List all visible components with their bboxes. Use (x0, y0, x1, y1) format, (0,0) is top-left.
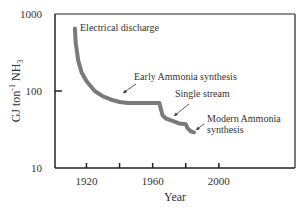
y-tick-label: 10 (31, 162, 43, 174)
x-axis-label: Year (164, 190, 186, 204)
y-axis-label-mid: NH (9, 63, 23, 84)
y-tick-label: 100 (26, 85, 43, 97)
x-tick-label: 1920 (75, 175, 98, 187)
x-tick-label: 2000 (208, 175, 231, 187)
axes: 192019602000101001000 (20, 8, 295, 187)
y-axis-label-main: GJ ton (9, 91, 23, 123)
arrow-modern-ammonia-head (196, 126, 200, 130)
y-tick-label: 1000 (20, 8, 43, 20)
annotation-modern-ammonia: Modern Ammonia (207, 113, 281, 124)
annotation-modern-ammonia-line2: synthesis (207, 124, 244, 135)
y-axis-label-sup: -1 (8, 84, 17, 91)
y-axis-label: GJ ton-1 NH3 (8, 60, 25, 123)
y-axis-label-sub: 3 (16, 60, 25, 64)
arrow-early-ammonia-head (123, 90, 127, 93)
chart: 192019602000101001000 Electrical dischar… (0, 0, 302, 210)
annotation-single-stream: Single stream (175, 88, 230, 99)
x-tick-label: 1960 (142, 175, 165, 187)
annotation-electrical-discharge: Electrical discharge (80, 22, 160, 33)
annotations-layer: Electrical dischargeEarly Ammonia synthe… (80, 22, 281, 135)
annotation-early-ammonia: Early Ammonia synthesis (134, 71, 237, 82)
